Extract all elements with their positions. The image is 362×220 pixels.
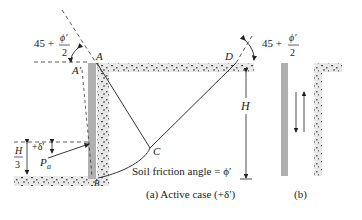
point-C: C — [153, 145, 161, 157]
active-force-arrow — [48, 144, 89, 158]
wall-b — [281, 63, 288, 176]
friction-angle-text: Soil friction angle = ϕ′ — [132, 165, 231, 177]
retaining-wall-diagram: 45 + ϕ′ 2 A A′ D C B 45 + ϕ′ 2 H H 3 +δ′… — [0, 0, 362, 220]
caption-b: (b) — [294, 188, 307, 201]
point-A-prime: A′ — [71, 64, 82, 76]
point-B: B — [94, 178, 100, 188]
retaining-wall — [88, 63, 96, 179]
third-height-numerator: H — [14, 145, 23, 156]
angle-right-denominator: 2 — [290, 47, 295, 58]
angle-right-numerator: ϕ′ — [289, 32, 297, 43]
failure-surface-BCD — [98, 63, 236, 178]
point-A: A — [95, 50, 103, 62]
angle-arc-left — [71, 48, 78, 62]
backfill-top-surface — [97, 63, 254, 72]
height-label: H — [240, 99, 251, 113]
failure-plane-extension-right — [236, 36, 252, 63]
backfill-wall-side — [97, 63, 109, 186]
force-subscript: a — [47, 162, 51, 171]
failure-plane-extension-left — [62, 10, 102, 72]
delta-label: +δ′ — [32, 141, 45, 152]
force-label: P — [39, 156, 47, 168]
third-height-denominator: 3 — [15, 159, 20, 170]
point-D: D — [224, 50, 233, 62]
angle-left-denominator: 2 — [62, 47, 67, 58]
caption-a: (a) Active case (+δ′) — [146, 188, 236, 201]
angle-left-numerator: ϕ′ — [60, 32, 68, 43]
angle-arc-right — [245, 40, 254, 60]
angle-left-prefix: 45 + — [34, 37, 54, 49]
soil-b-top — [314, 63, 342, 72]
angle-right-prefix: 45 + — [262, 37, 282, 49]
soil-b-vertical — [314, 63, 322, 176]
